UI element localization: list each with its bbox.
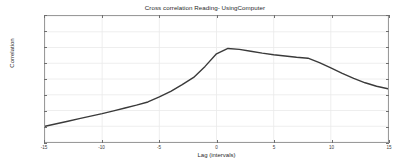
y-tick-mark xyxy=(44,47,47,48)
x-tick-mark xyxy=(389,140,390,143)
x-tick-label: -15 xyxy=(41,145,48,150)
y-tick-mark xyxy=(44,31,47,32)
x-tick-mark-top xyxy=(332,15,333,18)
x-tick-label: 5 xyxy=(273,145,276,150)
x-tick-mark xyxy=(44,140,45,143)
y-tick-mark-right xyxy=(386,143,389,144)
y-tick-mark-right xyxy=(386,127,389,128)
y-tick-mark-right xyxy=(386,47,389,48)
x-axis-label: Lag (intervals) xyxy=(44,152,389,158)
x-tick-mark xyxy=(332,140,333,143)
x-tick-mark xyxy=(159,140,160,143)
chart-title: Cross correlation Reading- UsingComputer xyxy=(0,4,410,11)
y-axis-label: Correlation xyxy=(9,23,15,83)
y-tick-mark-right xyxy=(386,31,389,32)
x-tick-mark xyxy=(102,140,103,143)
y-tick-mark xyxy=(44,79,47,80)
x-tick-label: -10 xyxy=(98,145,105,150)
y-tick-mark xyxy=(44,95,47,96)
x-tick-mark-top xyxy=(159,15,160,18)
x-tick-label: -5 xyxy=(157,145,161,150)
y-tick-mark-right xyxy=(386,111,389,112)
x-tick-label: 0 xyxy=(215,145,218,150)
x-tick-mark xyxy=(274,140,275,143)
chart-figure: Cross correlation Reading- UsingComputer… xyxy=(0,0,410,168)
x-tick-mark-top xyxy=(217,15,218,18)
plot-area xyxy=(44,15,389,143)
y-tick-mark xyxy=(44,63,47,64)
x-tick-mark-top xyxy=(102,15,103,18)
y-tick-mark-right xyxy=(386,63,389,64)
y-tick-mark-right xyxy=(386,95,389,96)
x-tick-mark-top xyxy=(389,15,390,18)
x-tick-label: 10 xyxy=(329,145,334,150)
y-tick-mark xyxy=(44,143,47,144)
y-tick-mark xyxy=(44,127,47,128)
x-tick-mark xyxy=(217,140,218,143)
x-tick-mark-top xyxy=(274,15,275,18)
x-tick-label: 15 xyxy=(386,145,391,150)
data-series-svg xyxy=(45,16,388,142)
x-tick-mark-top xyxy=(44,15,45,18)
y-tick-mark xyxy=(44,111,47,112)
y-tick-mark-right xyxy=(386,79,389,80)
